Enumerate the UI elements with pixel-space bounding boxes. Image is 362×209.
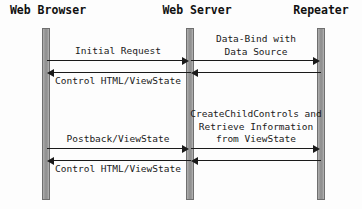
sequence-diagram-canvas: Web Browser Web Server Repeater Initial … xyxy=(0,0,362,209)
message-line-createchildcontrols xyxy=(191,148,314,149)
message-label-control-html-viewstate-1: Control HTML/ViewState xyxy=(55,75,181,88)
message-label-control-html-viewstate-2: Control HTML/ViewState xyxy=(55,163,181,176)
participant-header-repeater: Repeater xyxy=(293,4,348,17)
arrowhead-initial-request xyxy=(182,57,189,65)
message-label-postback-viewstate: Postback/ViewState xyxy=(67,133,170,146)
message-label-data-bind: Data-Bind with Data Source xyxy=(216,33,296,58)
arrowhead-repeater-return-1 xyxy=(191,69,198,77)
lifeline-web-browser xyxy=(42,28,50,200)
message-line-control-html-viewstate-1 xyxy=(54,72,191,73)
message-line-control-html-viewstate-2 xyxy=(54,160,191,161)
arrowhead-postback-viewstate xyxy=(182,145,189,153)
participant-header-web-server: Web Server xyxy=(162,4,231,17)
message-line-repeater-return-1 xyxy=(198,72,321,73)
message-label-initial-request: Initial Request xyxy=(75,45,161,58)
message-line-postback-viewstate xyxy=(47,148,183,149)
arrowhead-control-html-viewstate-1 xyxy=(47,69,54,77)
message-line-initial-request xyxy=(47,60,183,61)
arrowhead-control-html-viewstate-2 xyxy=(47,157,54,165)
message-line-repeater-return-2 xyxy=(198,160,321,161)
message-line-data-bind xyxy=(191,60,314,61)
message-label-createchildcontrols: CreateChildControls and Retrieve Informa… xyxy=(190,108,322,146)
arrowhead-repeater-return-2 xyxy=(191,157,198,165)
arrowhead-createchildcontrols xyxy=(313,145,320,153)
arrowhead-data-bind xyxy=(313,57,320,65)
participant-header-web-browser: Web Browser xyxy=(10,4,86,17)
